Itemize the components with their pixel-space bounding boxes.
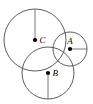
circle-group-c: C [4,9,66,71]
geometry-figure: C B A [0,0,93,104]
center-label-a: A [66,36,73,46]
center-dot-a [68,47,72,51]
center-dot-c [33,38,37,42]
three-tangent-circles-svg: C B A [0,0,93,104]
center-label-c: C [40,35,47,45]
circle-group-b: B [22,47,74,99]
center-dot-b [46,71,50,75]
center-label-b: B [53,68,59,78]
